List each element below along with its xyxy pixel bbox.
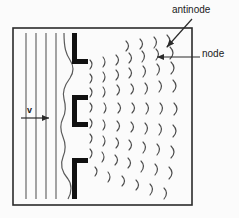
arc — [140, 39, 143, 49]
arc — [173, 80, 176, 92]
arc — [157, 144, 160, 155]
arc — [126, 41, 129, 51]
arc — [129, 53, 132, 63]
arc-row — [90, 134, 174, 158]
arc — [156, 49, 159, 60]
arc — [108, 172, 110, 182]
arc — [150, 184, 153, 195]
arc-row — [90, 149, 172, 179]
arc — [103, 72, 105, 82]
barrier-segment-bottom — [72, 158, 88, 199]
arc — [90, 103, 92, 112]
arc — [117, 85, 120, 95]
arc — [90, 74, 92, 83]
arc — [141, 161, 144, 172]
arc — [143, 66, 146, 77]
arc — [155, 164, 158, 175]
arc — [142, 51, 145, 62]
arc — [116, 70, 119, 80]
arc — [174, 103, 177, 115]
arc — [131, 122, 134, 132]
arc — [171, 62, 174, 74]
arc — [164, 188, 167, 199]
arc — [95, 167, 97, 176]
arc — [90, 60, 92, 69]
arc — [117, 121, 120, 131]
arc — [129, 68, 132, 78]
arc — [90, 88, 92, 97]
curved-wavefront-path — [61, 33, 73, 199]
arc-row — [90, 119, 176, 137]
arc — [90, 134, 92, 143]
arc — [159, 81, 162, 92]
diagram-frame — [13, 28, 192, 205]
arc — [102, 152, 104, 162]
arc — [145, 83, 148, 94]
incoming-wavefronts — [26, 33, 56, 199]
velocity-label: v — [27, 106, 32, 115]
arc — [103, 87, 105, 97]
barrier-segment-top — [72, 33, 88, 64]
arc — [104, 103, 106, 113]
arc-row — [90, 47, 173, 69]
arc — [122, 176, 125, 186]
arc-row — [126, 35, 170, 51]
arc — [143, 142, 146, 153]
arc — [115, 155, 118, 165]
arc — [131, 84, 134, 94]
antinode-arrow — [167, 19, 192, 47]
arc — [90, 149, 92, 158]
arc-row — [90, 103, 177, 115]
arc — [103, 136, 105, 146]
arc — [103, 120, 105, 130]
arc — [132, 103, 135, 113]
diagram-canvas — [0, 0, 239, 218]
arc — [159, 124, 162, 135]
arc — [136, 180, 139, 190]
diffracted-arc-field — [90, 35, 177, 199]
arc — [116, 138, 119, 148]
arc — [128, 158, 131, 168]
barrier-segment-middle — [72, 95, 88, 127]
arc — [154, 37, 157, 48]
barrier-assembly — [72, 33, 88, 199]
antinode-label: antinode — [172, 5, 210, 15]
arc — [129, 140, 132, 150]
arc — [173, 125, 176, 137]
arc — [103, 57, 105, 67]
arc-row — [95, 167, 167, 199]
wave-interference-figure: antinode node v — [0, 0, 239, 218]
arc-row — [90, 62, 174, 83]
arc — [157, 64, 160, 75]
curved-wavefront — [61, 33, 73, 199]
arc — [116, 55, 119, 65]
node-label: node — [202, 49, 224, 59]
arc — [146, 103, 149, 114]
arc — [118, 103, 121, 113]
arc — [145, 123, 148, 134]
arc — [160, 103, 163, 114]
arc — [90, 119, 92, 128]
annotation-arrows — [157, 19, 200, 57]
arc — [169, 167, 172, 179]
arc — [171, 146, 174, 158]
